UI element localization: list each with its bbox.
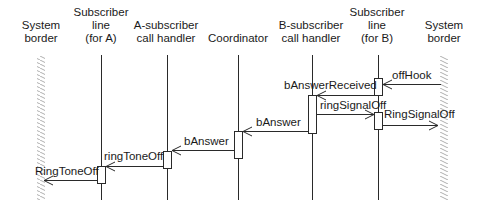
message-label-offhook: offHook [392, 69, 431, 81]
message-arrow-ringtoneoff [106, 162, 163, 171]
activation-subscriber-b-2 [375, 113, 383, 130]
message-label-banswer-to-a-handler: bAnswer [184, 135, 229, 147]
message-label-ringsignaloff-external: RingSignalOff [384, 108, 455, 120]
message-arrow-banswer-to-a-handler [172, 146, 234, 155]
message-arrow-ringsignaloff [317, 110, 374, 119]
activation-a-handler [164, 152, 172, 169]
system-border-left [37, 56, 45, 200]
activation-coordinator [235, 132, 243, 159]
message-arrow-ringsignaloff-external [383, 121, 438, 130]
message-label-ringtoneoff-external: RingToneOff [35, 165, 99, 177]
system-border-right [440, 56, 448, 200]
message-label-banswerreceived: bAnswerReceived [284, 79, 377, 91]
message-label-ringtoneoff: ringToneOff [104, 150, 163, 162]
sequence-diagram-canvas [0, 0, 481, 209]
message-arrow-offhook [383, 80, 441, 89]
message-arrow-banswer-to-coordinator [243, 127, 308, 136]
message-arrow-ringtoneoff-external [44, 176, 97, 185]
message-label-ringsignaloff: ringSignalOff [320, 99, 386, 111]
activation-b-handler [309, 96, 317, 134]
message-label-banswer-to-coordinator: bAnswer [256, 116, 301, 128]
